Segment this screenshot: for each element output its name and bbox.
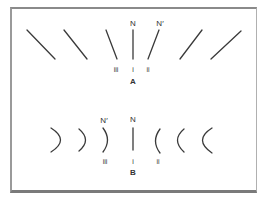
panel-b-arc-ii	[156, 129, 161, 153]
panel-a-label-iii: iii	[114, 66, 119, 73]
panel-a-line-1	[27, 30, 55, 59]
panel-a-title: A	[130, 77, 136, 86]
panel-b-labels: N′ N iii i ii B	[100, 115, 160, 177]
panel-a-label-ii: ii	[146, 66, 150, 73]
panel-b-label-n: N	[130, 115, 136, 124]
refraction-diagram: N N′ iii i ii A N′ N iii i ii B	[0, 0, 264, 202]
panel-a	[27, 30, 241, 59]
panel-b-label-n-prime: N′	[100, 116, 108, 125]
panel-a-label-n: N	[130, 19, 136, 28]
panel-b	[51, 128, 212, 153]
panel-b-label-iii: iii	[103, 158, 108, 165]
panel-a-labels: N N′ iii i ii A	[114, 19, 164, 86]
panel-a-line-2	[64, 30, 87, 59]
panel-b-title: B	[130, 168, 136, 177]
panel-b-arc-2	[79, 129, 86, 151]
panel-a-line-6	[180, 30, 202, 59]
panel-a-label-n-prime: N′	[156, 19, 164, 28]
panel-a-line-ii	[148, 30, 159, 59]
panel-b-arc-1	[51, 128, 61, 152]
panel-b-label-i: i	[132, 158, 134, 165]
panel-a-line-7	[211, 31, 241, 59]
panel-a-line-iii	[106, 30, 117, 59]
panel-b-arc-6	[178, 129, 185, 152]
panel-b-arc-iii	[103, 128, 108, 152]
panel-b-arc-7	[203, 128, 213, 153]
panel-a-label-i: i	[132, 66, 134, 73]
panel-b-label-ii: ii	[156, 158, 160, 165]
